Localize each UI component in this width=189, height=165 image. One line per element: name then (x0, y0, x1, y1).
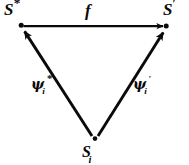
edge-label-f: f (85, 2, 91, 19)
edge-label-psi-star-subscript: i (42, 86, 45, 96)
edge-line-psi-prime (98, 33, 163, 136)
diagram-canvas: S* S′ Si f ψi* ψi′ (0, 0, 189, 165)
node-label-s-i-subscript: i (89, 154, 92, 165)
node-label-s-prime-superscript: ′ (172, 0, 175, 9)
edge-label-psi-star: ψi* (31, 77, 52, 92)
node-label-s-prime: S′ (163, 1, 175, 18)
edge-label-psi-prime-superscript: ′ (149, 74, 151, 84)
edge-label-psi-prime: ψi′ (133, 77, 151, 92)
node-dot-s-i (93, 136, 98, 141)
edge-label-psi-star-superscript: * (47, 72, 52, 84)
node-dot-s-prime (164, 24, 169, 29)
node-label-s-star-superscript: * (14, 0, 21, 10)
node-label-s-star-base: S (4, 0, 13, 19)
edge-label-psi-prime-subscript: i (144, 86, 147, 96)
node-label-s-i: Si (82, 144, 94, 160)
node-dot-s-star (19, 23, 24, 28)
triangle-diagram-graphic (0, 0, 189, 165)
edge-label-f-base: f (85, 1, 91, 20)
node-label-s-star: S* (4, 1, 20, 18)
